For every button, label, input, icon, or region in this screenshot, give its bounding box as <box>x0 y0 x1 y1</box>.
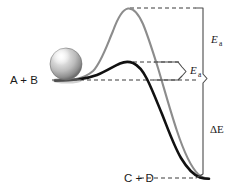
ea-uncatalyzed-subscript: a <box>219 39 223 48</box>
sphere-highlight <box>50 48 82 80</box>
energy-diagram-svg: A + B C + D E a E a ΔE <box>0 0 233 193</box>
products-label: C + D <box>124 172 154 184</box>
energy-change-label: ΔE <box>210 123 224 135</box>
ea-catalyzed-subscript: a <box>198 70 202 79</box>
uncatalyzed-pathway-curve <box>56 8 208 178</box>
ea-catalyzed-symbol: E <box>189 64 197 76</box>
activation-energy-uncatalyzed-label: E a <box>210 33 223 48</box>
outer-bracket <box>196 8 207 178</box>
ea-uncatalyzed-symbol: E <box>210 33 218 45</box>
reactants-label: A + B <box>10 74 38 86</box>
energy-profile-figure: A + B C + D E a E a ΔE <box>0 0 233 193</box>
activation-energy-catalyzed-label: E a <box>189 64 202 79</box>
